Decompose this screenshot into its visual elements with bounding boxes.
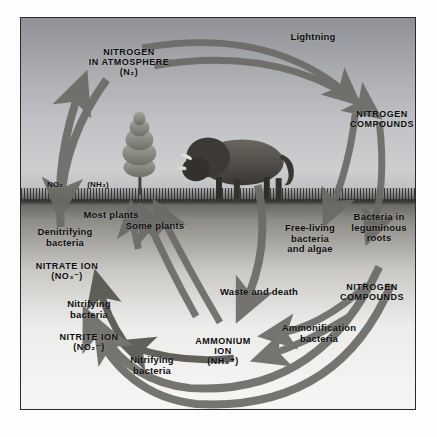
label-nitrifying-bacteria-lower: Nitrifying bacteria bbox=[115, 355, 189, 376]
label-nh3: (NH₃) bbox=[79, 181, 117, 190]
label-free-living-bacteria: Free-living bacteria and algae bbox=[273, 223, 347, 255]
label-no2: NO₂ bbox=[40, 181, 70, 190]
nitrogen-cycle-diagram: NITROGEN IN ATMOSPHERE (N₂) Lightning NI… bbox=[0, 0, 437, 437]
diagram-frame: NITROGEN IN ATMOSPHERE (N₂) Lightning NI… bbox=[20, 17, 416, 410]
label-some-plants: Some plants bbox=[115, 221, 195, 232]
label-lightning: Lightning bbox=[273, 32, 353, 43]
label-ammonium-ion: AMMONIUM ION (NH₄⁺) bbox=[179, 336, 267, 366]
label-denitrifying-bacteria: Denitrifying bacteria bbox=[25, 227, 105, 248]
label-nitrifying-bacteria-upper: Nitrifying bacteria bbox=[51, 299, 127, 320]
label-nitrite-ion: NITRITE ION (NO₂⁻) bbox=[43, 332, 135, 352]
label-nitrogen-compounds-air: NITROGEN COMPOUNDS bbox=[343, 109, 416, 129]
label-nitrogen-in-atmosphere: NITROGEN IN ATMOSPHERE (N₂) bbox=[69, 47, 189, 77]
label-nitrogen-compounds-soil: NITROGEN COMPOUNDS bbox=[329, 282, 415, 302]
label-nitrate-ion: NITRATE ION (NO₃⁻) bbox=[21, 261, 113, 281]
label-bacteria-leguminous-roots: Bacteria in leguminous roots bbox=[341, 212, 416, 244]
label-ammonification-bacteria: Ammonification bacteria bbox=[271, 323, 367, 344]
label-waste-and-death: Waste and death bbox=[207, 287, 311, 298]
